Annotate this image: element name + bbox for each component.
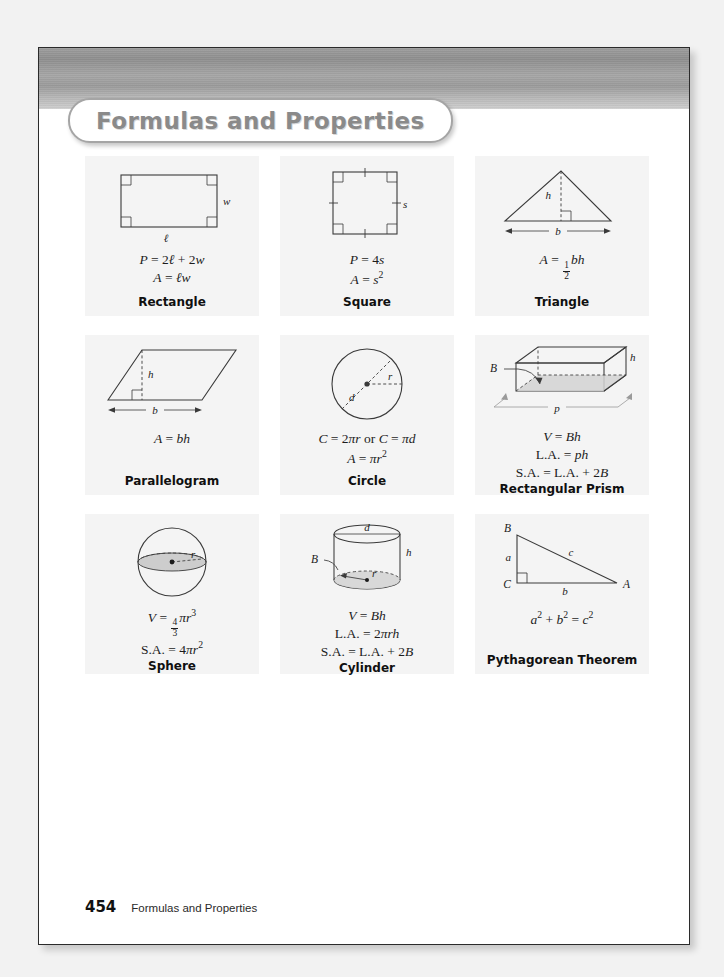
formula-perimeter: P = 4s: [350, 251, 385, 269]
vertex-A: A: [622, 578, 631, 590]
page-footer: 454 Formulas and Properties: [85, 898, 257, 916]
card-label-square: Square: [343, 295, 391, 316]
label-b: b: [555, 225, 561, 237]
formula-card-triangle: h b A = 12bh Triangle: [475, 156, 649, 316]
formula-area: A = bh: [154, 430, 190, 448]
card-label-rectangular-prism: Rectangular Prism: [500, 482, 625, 503]
label-h: h: [630, 351, 636, 363]
formula-volume: V = 43πr3: [148, 607, 196, 639]
triangle-diagram: h b: [489, 162, 635, 248]
formula-card-sphere: r V = 43πr3 S.A. = 4πr2 Sphere: [85, 514, 259, 674]
parallelogram-diagram: h b: [98, 341, 246, 427]
vertex-C: C: [503, 578, 511, 590]
formula-lateral-area: L.A. = 2πrh: [335, 625, 399, 643]
rectangular-prism-formulas: V = Bh L.A. = ph S.A. = L.A. + 2B: [516, 425, 608, 482]
formula-area: A = 12bh: [540, 251, 585, 282]
formula-surface-area: S.A. = L.A. + 2B: [516, 464, 608, 482]
triangle-formulas: A = 12bh: [540, 248, 585, 295]
card-label-parallelogram: Parallelogram: [125, 474, 219, 495]
cylinder-formulas: V = Bh L.A. = 2πrh S.A. = L.A. + 2B: [321, 604, 413, 661]
formula-volume: V = Bh: [543, 428, 581, 446]
formula-volume: V = Bh: [348, 607, 386, 625]
circle-diagram: d r: [298, 341, 436, 427]
footer-title: Formulas and Properties: [131, 902, 257, 914]
label-r: r: [388, 370, 393, 382]
formula-lateral-area: L.A. = ph: [536, 446, 589, 464]
pythagorean-diagram: B C A a b c: [487, 520, 637, 606]
label-b: b: [152, 404, 158, 416]
card-label-pythagorean-theorem: Pythagorean Theorem: [487, 653, 638, 674]
label-l: ℓ: [164, 232, 169, 244]
label-d: d: [364, 521, 370, 533]
page-title-pill: Formulas and Properties: [68, 98, 453, 143]
card-label-rectangle: Rectangle: [138, 295, 206, 316]
label-s: s: [403, 198, 407, 210]
formula-card-square: s P = 4s A = s2 Square: [280, 156, 454, 316]
card-label-triangle: Triangle: [535, 295, 589, 316]
formula-card-cylinder: d h B r V = Bh L.A. = 2πrh S.A. = L.A. +…: [280, 514, 454, 674]
label-w: w: [223, 195, 231, 207]
formula-area: A = ℓw: [153, 269, 190, 287]
square-diagram: s: [298, 162, 436, 248]
formula-perimeter: P = 2ℓ + 2w: [139, 251, 204, 269]
formula-card-pythagorean-theorem: B C A a b c a2 + b2 = c2 Pythagorean The…: [475, 514, 649, 674]
footer-page-number: 454: [85, 898, 116, 916]
card-label-cylinder: Cylinder: [339, 661, 395, 682]
formula-surface-area: S.A. = L.A. + 2B: [321, 643, 413, 661]
sphere-diagram: r: [103, 520, 241, 604]
rectangular-prism-diagram: B h p: [482, 341, 642, 425]
label-p: p: [553, 402, 560, 414]
rectangle-formulas: P = 2ℓ + 2w A = ℓw: [139, 248, 204, 295]
formula-area: A = s2: [351, 269, 384, 288]
label-h: h: [406, 546, 412, 558]
label-B: B: [311, 553, 318, 565]
label-h: h: [148, 368, 154, 380]
textbook-page: Formulas and Properties w ℓ P = 2ℓ + 2w …: [38, 47, 690, 945]
page-title: Formulas and Properties: [96, 108, 425, 134]
card-label-circle: Circle: [348, 474, 386, 495]
label-c: c: [569, 546, 574, 558]
card-label-sphere: Sphere: [148, 659, 196, 680]
label-B: B: [490, 362, 497, 374]
label-r: r: [191, 548, 196, 560]
parallelogram-formulas: A = bh: [154, 427, 190, 474]
rectangle-diagram: w ℓ: [103, 162, 241, 248]
label-d: d: [349, 391, 355, 403]
formula-pythagorean: a2 + b2 = c2: [531, 609, 594, 628]
vertex-B: B: [504, 522, 511, 534]
circle-formulas: C = 2πr or C = πd A = πr2: [318, 427, 415, 474]
label-a: a: [506, 551, 512, 563]
formula-area: A = πr2: [347, 448, 387, 467]
formula-card-circle: d r C = 2πr or C = πd A = πr2 Circle: [280, 335, 454, 495]
formula-circumference: C = 2πr or C = πd: [318, 430, 415, 448]
square-formulas: P = 4s A = s2: [350, 248, 385, 295]
pythagorean-formulas: a2 + b2 = c2: [531, 606, 594, 653]
formula-card-rectangular-prism: B h p V = Bh L.A. = ph S.A. = L.A. + 2B …: [475, 335, 649, 495]
label-r: r: [372, 567, 377, 579]
formula-card-grid: w ℓ P = 2ℓ + 2w A = ℓw Rectangle: [85, 156, 649, 674]
cylinder-diagram: d h B r: [294, 520, 440, 604]
formula-card-rectangle: w ℓ P = 2ℓ + 2w A = ℓw Rectangle: [85, 156, 259, 316]
formula-card-parallelogram: h b A = bh Parallelogram: [85, 335, 259, 495]
formula-surface-area: S.A. = 4πr2: [141, 639, 203, 658]
label-h: h: [546, 189, 552, 201]
label-b: b: [562, 585, 568, 597]
sphere-formulas: V = 43πr3 S.A. = 4πr2: [141, 604, 203, 659]
